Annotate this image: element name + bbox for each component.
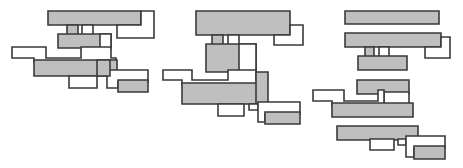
figure-root [0, 0, 463, 168]
block-left-12 [97, 60, 110, 76]
block-mid-8 [182, 83, 266, 104]
block-mid-13 [265, 112, 300, 124]
block-diagram-svg [0, 0, 463, 168]
block-right-13 [398, 139, 406, 145]
block-right-12 [370, 139, 394, 150]
block-right-1 [345, 11, 439, 24]
block-right-10 [332, 103, 413, 117]
block-mid-10 [218, 104, 244, 116]
block-right-6 [358, 56, 407, 70]
block-left-1 [48, 11, 141, 25]
block-mid-11 [249, 104, 258, 110]
block-mid-6 [239, 44, 256, 72]
block-left-11 [118, 80, 148, 92]
block-left-6 [100, 34, 111, 48]
block-mid-1 [196, 11, 290, 35]
block-right-2 [345, 33, 441, 47]
block-left-9 [69, 76, 97, 88]
block-right-15 [414, 146, 445, 159]
block-mid-9 [256, 72, 268, 104]
